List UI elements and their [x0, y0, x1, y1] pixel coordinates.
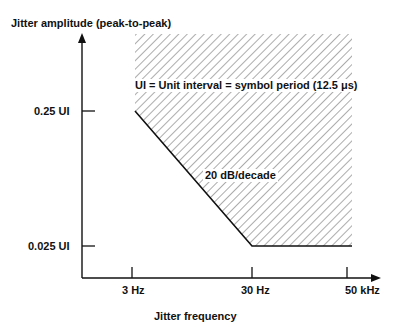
y-axis-title: Jitter amplitude (peak-to-peak) [11, 18, 171, 29]
diagram-graphics [0, 0, 397, 333]
slope-annotation: 20 dB/decade [203, 169, 278, 182]
jitter-tolerance-diagram: Jitter amplitude (peak-to-peak) 0.25 UI … [0, 0, 397, 333]
unit-interval-annotation: UI = Unit interval = symbol period (12.5… [133, 79, 360, 92]
x-axis-title: Jitter frequency [154, 311, 237, 322]
y-axis-arrow-icon [78, 33, 86, 43]
x-axis-arrow-icon [371, 274, 381, 282]
x-tick-label-50khz: 50 kHz [345, 285, 380, 296]
x-tick-label-30hz: 30 Hz [241, 285, 270, 296]
hatched-tolerance-region [135, 34, 352, 246]
y-tick-label-0.25: 0.25 UI [34, 106, 69, 117]
x-tick-label-3hz: 3 Hz [122, 285, 145, 296]
y-tick-label-0.025: 0.025 UI [28, 241, 70, 252]
